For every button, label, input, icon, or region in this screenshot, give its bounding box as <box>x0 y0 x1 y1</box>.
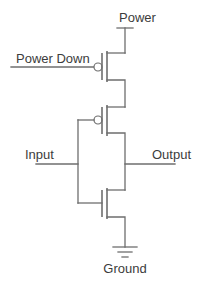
source-lead <box>107 217 125 247</box>
ground-terminal: Ground <box>103 247 146 276</box>
power-label: Power <box>119 10 157 25</box>
power-down-label: Power Down <box>16 51 90 66</box>
circuit-diagram: Power Power Down Input <box>0 0 203 283</box>
input-terminal: Input <box>25 120 78 203</box>
ground-icon <box>113 247 137 257</box>
inversion-bubble-icon <box>94 63 102 71</box>
inversion-bubble-icon <box>94 116 102 124</box>
power-terminal: Power <box>117 10 157 53</box>
drain-lead <box>107 133 125 190</box>
circuit-svg: Power Power Down Input <box>0 0 203 283</box>
output-terminal: Output <box>125 147 191 164</box>
pmos-power-down-transistor: Power Down <box>11 51 125 107</box>
input-label: Input <box>25 147 54 162</box>
output-label: Output <box>152 147 191 162</box>
ground-label: Ground <box>103 261 146 276</box>
pmos-input-transistor <box>78 105 125 190</box>
nmos-input-transistor <box>78 188 125 247</box>
drain-lead <box>107 80 125 107</box>
